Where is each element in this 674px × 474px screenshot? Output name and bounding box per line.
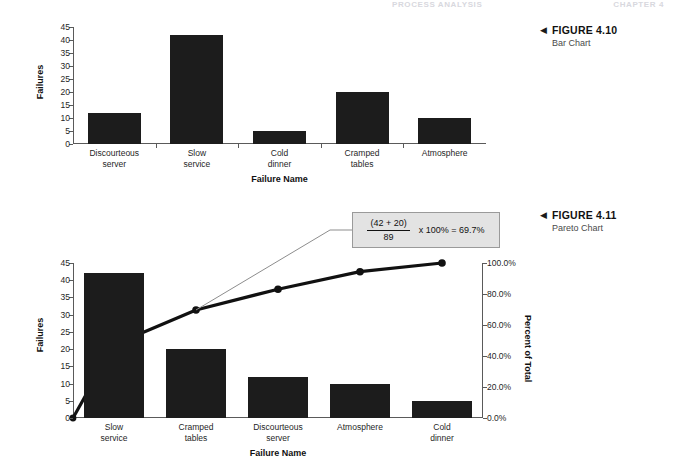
secondary-y-axis-tick-label: 20.0% [487, 383, 511, 392]
callout-fraction: (42 + 20) 89 [367, 218, 409, 243]
bar [84, 273, 143, 418]
y-axis-tick-label: 40 [61, 36, 70, 45]
x-axis-category-label: Cold dinner [239, 148, 321, 169]
y-axis-tick-label: 20 [61, 345, 70, 354]
y-axis-tick-label: 40 [61, 276, 70, 285]
pareto-chart-plot-area: 0510152025303540450.0%20.0%40.0%60.0%80.… [73, 263, 483, 418]
x-axis-category-label: Cramped tables [155, 422, 237, 443]
bar [330, 384, 389, 418]
bar [418, 118, 471, 144]
bar [88, 113, 141, 144]
bar [170, 35, 223, 144]
figure-4-10-subtitle: Bar Chart [552, 37, 617, 49]
secondary-y-axis-tick-label: 100.0% [487, 259, 516, 268]
running-head-right: CHAPTER 4 [613, 0, 664, 9]
cumulative-data-point [356, 268, 364, 276]
x-axis-category-label: Cold dinner [401, 422, 483, 443]
y-axis-tick-label: 30 [61, 62, 70, 71]
pareto-chart: Failures Percent of Total 05101520253035… [18, 258, 538, 458]
pareto-chart-y-axis-title: Failures [35, 305, 45, 365]
x-axis-category-label: Cramped tables [321, 148, 403, 169]
y-axis-tick-label: 35 [61, 293, 70, 302]
y-axis-tick-label: 10 [61, 114, 70, 123]
y-axis-tick-label: 30 [61, 310, 70, 319]
callout-denominator: 89 [384, 231, 394, 243]
secondary-y-axis-tick-label: 80.0% [487, 290, 511, 299]
bar-chart: Failures 051015202530354045Discourteous … [18, 22, 488, 192]
figure-4-11-title: FIGURE 4.11 [552, 209, 617, 221]
bar [412, 401, 471, 418]
secondary-y-axis-tick-label: 40.0% [487, 352, 511, 361]
secondary-y-axis-tick-label: 0.0% [487, 414, 506, 423]
figure-4-11-caption-text: FIGURE 4.11 Pareto Chart [552, 209, 617, 234]
callout-numerator: (42 + 20) [367, 218, 409, 231]
y-axis-tick-label: 25 [61, 75, 70, 84]
left-triangle-icon: ◀ [540, 24, 547, 36]
running-head: PROCESS ANALYSIS CHAPTER 4 [392, 0, 664, 10]
y-axis-tick-label: 0 [65, 140, 70, 149]
y-axis-tick-label: 20 [61, 88, 70, 97]
callout-expression: x 100% = 69.7% [419, 225, 485, 235]
bar [248, 377, 307, 418]
figure-4-11-subtitle: Pareto Chart [552, 222, 617, 234]
y-axis-tick-label: 25 [61, 327, 70, 336]
cumulative-data-point [192, 306, 200, 314]
bar [166, 349, 225, 418]
pareto-chart-x-axis-title: Failure Name [73, 448, 483, 458]
cumulative-data-point [274, 285, 282, 293]
figure-4-10-caption-text: FIGURE 4.10 Bar Chart [552, 24, 617, 49]
callout-box-69-7-percent: (42 + 20) 89 x 100% = 69.7% [352, 212, 500, 248]
y-axis-tick-label: 15 [61, 362, 70, 371]
bar [336, 92, 389, 144]
pareto-chart-secondary-y-axis-line [482, 263, 483, 418]
y-axis-tick-label: 10 [61, 379, 70, 388]
figure-4-10-caption: ◀ FIGURE 4.10 Bar Chart [540, 24, 617, 49]
y-axis-tick-label: 0 [65, 414, 70, 423]
bar [253, 131, 306, 144]
x-axis-category-label: Atmosphere [319, 422, 401, 433]
y-axis-tick-label: 35 [61, 49, 70, 58]
figure-4-10-title: FIGURE 4.10 [552, 24, 617, 36]
pareto-chart-secondary-y-axis-title: Percent of Total [523, 315, 533, 375]
secondary-y-axis-tick-label: 60.0% [487, 321, 511, 330]
y-axis-tick-label: 5 [65, 127, 70, 136]
x-axis-category-label: Discourteous server [73, 148, 155, 169]
y-axis-tick-label: 5 [65, 396, 70, 405]
pareto-chart-y-axis-line [73, 263, 74, 418]
y-axis-tick-label: 45 [61, 23, 70, 32]
left-triangle-icon: ◀ [540, 209, 547, 221]
x-axis-category-label: Discourteous server [237, 422, 319, 443]
x-axis-category-label: Slow service [73, 422, 155, 443]
y-axis-tick-label: 45 [61, 259, 70, 268]
bar-chart-y-axis-title: Failures [35, 52, 45, 112]
y-axis-tick-label: 15 [61, 101, 70, 110]
x-axis-category-label: Atmosphere [404, 148, 486, 159]
bar-chart-plot-area: 051015202530354045Discourteous serverSlo… [73, 27, 486, 144]
figure-4-11-caption: ◀ FIGURE 4.11 Pareto Chart [540, 209, 617, 234]
x-axis-category-label: Slow service [156, 148, 238, 169]
cumulative-data-point [438, 259, 446, 267]
bar-chart-x-axis-title: Failure Name [73, 174, 486, 184]
running-head-left: PROCESS ANALYSIS [392, 0, 482, 9]
bar-chart-y-axis-line [73, 27, 74, 144]
